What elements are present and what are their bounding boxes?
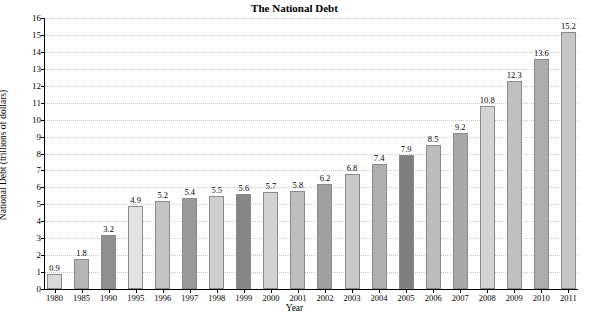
bar bbox=[561, 32, 576, 289]
bar-column: 7.42004 bbox=[372, 18, 387, 289]
bar bbox=[155, 201, 170, 289]
bar-value-label: 5.5 bbox=[211, 185, 222, 195]
bar bbox=[74, 259, 89, 289]
bar bbox=[534, 59, 549, 289]
x-axis-tick-label: 2007 bbox=[452, 293, 469, 303]
x-axis-tick-mark bbox=[244, 289, 245, 293]
x-axis-tick-label: 1998 bbox=[208, 293, 225, 303]
x-axis-tick-label: 2000 bbox=[262, 293, 279, 303]
y-axis-tick-mark bbox=[41, 289, 45, 290]
x-axis-tick-mark bbox=[460, 289, 461, 293]
bar-column: 10.82008 bbox=[480, 18, 495, 289]
y-axis-tick-label: 15 bbox=[32, 30, 41, 40]
bar-column: 5.41997 bbox=[182, 18, 197, 289]
x-axis-tick-label: 2006 bbox=[425, 293, 442, 303]
bar bbox=[399, 155, 414, 289]
bar bbox=[290, 191, 305, 289]
bar-value-label: 5.2 bbox=[157, 190, 168, 200]
x-axis-tick-mark bbox=[55, 289, 56, 293]
bar-column: 4.91995 bbox=[128, 18, 143, 289]
y-axis-tick-label: 12 bbox=[32, 81, 41, 91]
x-axis-tick-label: 2004 bbox=[371, 293, 388, 303]
bar-column: 0.91980 bbox=[47, 18, 62, 289]
bar bbox=[317, 184, 332, 289]
x-axis-tick-mark bbox=[163, 289, 164, 293]
x-axis-tick-mark bbox=[514, 289, 515, 293]
bar bbox=[209, 196, 224, 289]
x-axis-tick-label: 1980 bbox=[46, 293, 63, 303]
x-axis-tick-mark bbox=[433, 289, 434, 293]
bar bbox=[345, 174, 360, 289]
bar-value-label: 0.9 bbox=[49, 263, 60, 273]
bar-value-label: 15.2 bbox=[561, 21, 576, 31]
x-axis-tick-mark bbox=[379, 289, 380, 293]
plot-area: 012345678910111213141516 0.919801.819853… bbox=[44, 18, 578, 290]
bar bbox=[263, 192, 278, 289]
bar-value-label: 1.8 bbox=[76, 248, 87, 258]
x-axis-tick-label: 1995 bbox=[127, 293, 144, 303]
x-axis-tick-label: 2002 bbox=[316, 293, 333, 303]
y-axis-label: National Debt (trillions of dollars) bbox=[0, 90, 8, 220]
x-axis-tick-label: 2011 bbox=[560, 293, 577, 303]
bar-column: 5.21996 bbox=[155, 18, 170, 289]
x-axis-tick-label: 1999 bbox=[235, 293, 252, 303]
bar-column: 6.82003 bbox=[345, 18, 360, 289]
bar-chart: The National Debt National Debt (trillio… bbox=[0, 0, 589, 321]
x-axis-tick-label: 2001 bbox=[289, 293, 306, 303]
x-axis-tick-label: 1990 bbox=[100, 293, 117, 303]
bar-value-label: 9.2 bbox=[455, 122, 466, 132]
bar-value-label: 5.8 bbox=[293, 180, 304, 190]
bar-column: 9.22007 bbox=[453, 18, 468, 289]
y-axis-tick-label: 11 bbox=[32, 98, 41, 108]
bar bbox=[101, 235, 116, 289]
x-axis-tick-mark bbox=[487, 289, 488, 293]
bar bbox=[480, 106, 495, 289]
bar-column: 5.51998 bbox=[209, 18, 224, 289]
bar bbox=[426, 145, 441, 289]
x-axis-tick-mark bbox=[217, 289, 218, 293]
x-axis-tick-mark bbox=[271, 289, 272, 293]
bar-column: 6.22002 bbox=[317, 18, 332, 289]
bar-value-label: 8.5 bbox=[428, 134, 439, 144]
bar-column: 13.62010 bbox=[534, 18, 549, 289]
x-axis-label: Year bbox=[0, 303, 589, 313]
bar bbox=[453, 133, 468, 289]
x-axis-tick-mark bbox=[109, 289, 110, 293]
bar-column: 5.82001 bbox=[290, 18, 305, 289]
bar-column: 12.32009 bbox=[507, 18, 522, 289]
bar-value-label: 7.4 bbox=[374, 153, 385, 163]
bar-column: 1.81985 bbox=[74, 18, 89, 289]
x-axis-tick-mark bbox=[82, 289, 83, 293]
x-axis-tick-label: 1996 bbox=[154, 293, 171, 303]
y-axis-tick-label: 10 bbox=[32, 115, 41, 125]
bar-value-label: 4.9 bbox=[130, 195, 141, 205]
bar-column: 5.72000 bbox=[263, 18, 278, 289]
bar-column: 3.21990 bbox=[101, 18, 116, 289]
x-axis-tick-label: 2010 bbox=[533, 293, 550, 303]
bar-value-label: 5.4 bbox=[184, 187, 195, 197]
y-axis-tick-label: 16 bbox=[32, 13, 41, 23]
bar-value-label: 5.6 bbox=[239, 183, 250, 193]
bar-column: 7.92005 bbox=[399, 18, 414, 289]
x-axis-tick-mark bbox=[568, 289, 569, 293]
x-axis-tick-mark bbox=[136, 289, 137, 293]
x-axis-tick-mark bbox=[541, 289, 542, 293]
bar-column: 5.61999 bbox=[236, 18, 251, 289]
bar-column: 15.22011 bbox=[561, 18, 576, 289]
bar-value-label: 7.9 bbox=[401, 144, 412, 154]
bar-value-label: 6.2 bbox=[320, 173, 331, 183]
bar-column: 8.52006 bbox=[426, 18, 441, 289]
x-axis-tick-label: 2008 bbox=[479, 293, 496, 303]
x-axis-tick-mark bbox=[298, 289, 299, 293]
y-axis-tick-label: 13 bbox=[32, 64, 41, 74]
x-axis-tick-label: 2003 bbox=[344, 293, 361, 303]
chart-title: The National Debt bbox=[0, 2, 589, 14]
bar bbox=[507, 81, 522, 289]
x-axis-tick-label: 1985 bbox=[73, 293, 90, 303]
bar bbox=[236, 194, 251, 289]
x-axis-tick-mark bbox=[325, 289, 326, 293]
bar-series: 0.919801.819853.219904.919955.219965.419… bbox=[45, 18, 578, 289]
bar-value-label: 13.6 bbox=[534, 48, 549, 58]
bar bbox=[372, 164, 387, 289]
x-axis-tick-mark bbox=[406, 289, 407, 293]
